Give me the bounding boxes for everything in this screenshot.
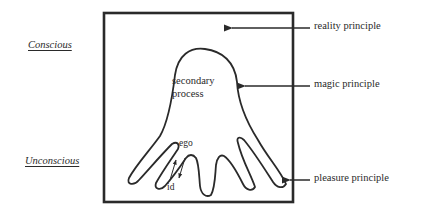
pleasure-principle-label: pleasure principle: [314, 173, 389, 184]
ego-label: ego: [179, 139, 193, 149]
reality-principle-label: reality principle: [314, 21, 381, 32]
magic-principle-label: magic principle: [314, 79, 380, 90]
secondary-process-blob: [128, 49, 286, 196]
secondary-label: secondary: [172, 76, 215, 87]
psyche-diagram: [0, 0, 426, 216]
id-label: id: [167, 183, 174, 193]
unconscious-label: Unconscious: [25, 156, 79, 167]
process-label: process: [172, 89, 204, 100]
conscious-label: Conscious: [28, 40, 72, 51]
